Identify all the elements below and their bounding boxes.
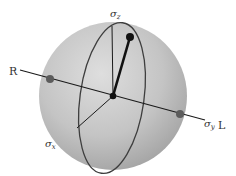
state-vector-tip — [126, 33, 134, 41]
bloch-sphere-diagram: σz R σy L σx — [0, 0, 236, 176]
l-pole-dot — [176, 110, 184, 118]
sigma-y-label: σy — [204, 118, 216, 131]
r-label: R — [9, 65, 18, 78]
origin-dot — [110, 93, 117, 100]
r-pole-dot — [46, 75, 54, 83]
l-label: L — [218, 119, 226, 132]
sigma-z-label: σz — [110, 8, 121, 21]
